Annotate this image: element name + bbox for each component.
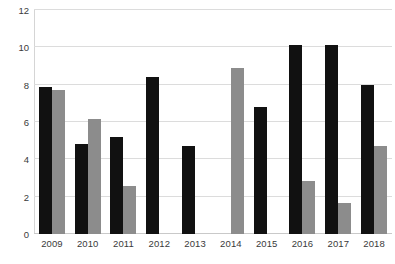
x-tick-label-2012: 2012 — [141, 238, 177, 249]
y-tick-label-0: 0 — [0, 229, 29, 240]
bar-groups — [34, 10, 392, 234]
y-tick-label-10: 10 — [0, 42, 29, 53]
x-tick-label-2017: 2017 — [320, 238, 356, 249]
bar-group-2012 — [141, 10, 177, 234]
bar-group-2018 — [356, 10, 392, 234]
bar-group-2017 — [320, 10, 356, 234]
bar-series-1-2017 — [325, 45, 338, 234]
bar-series-2-2018 — [374, 146, 387, 234]
y-tick-label-12: 12 — [0, 5, 29, 16]
bar-series-1-2016 — [289, 45, 302, 234]
bar-group-2010 — [70, 10, 106, 234]
x-tick-label-2016: 2016 — [285, 238, 321, 249]
x-tick-label-2010: 2010 — [70, 238, 106, 249]
x-tick-label-2014: 2014 — [213, 238, 249, 249]
x-axis-tick-labels: 2009201020112012201320142015201620172018 — [34, 238, 392, 249]
bar-series-1-2015 — [254, 107, 267, 234]
bar-series-2-2017 — [338, 203, 351, 234]
y-tick-label-8: 8 — [0, 79, 29, 90]
bar-series-2-2011 — [123, 186, 136, 234]
x-tick-label-2018: 2018 — [356, 238, 392, 249]
bar-series-1-2018 — [361, 85, 374, 234]
y-tick-label-2: 2 — [0, 191, 29, 202]
bar-series-1-2010 — [75, 144, 88, 234]
bar-series-1-2009 — [39, 87, 52, 234]
bar-series-2-2009 — [52, 90, 65, 234]
y-tick-label-4: 4 — [0, 154, 29, 165]
bar-group-2013 — [177, 10, 213, 234]
bar-group-2011 — [106, 10, 142, 234]
x-tick-label-2011: 2011 — [106, 238, 142, 249]
x-tick-label-2013: 2013 — [177, 238, 213, 249]
bar-series-2-2014 — [231, 68, 244, 234]
x-tick-label-2009: 2009 — [34, 238, 70, 249]
bar-chart: 024681012 200920102011201220132014201520… — [0, 0, 395, 264]
bar-group-2009 — [34, 10, 70, 234]
y-tick-label-6: 6 — [0, 117, 29, 128]
plot-area — [34, 10, 392, 234]
x-tick-label-2015: 2015 — [249, 238, 285, 249]
bar-group-2015 — [249, 10, 285, 234]
y-axis-tick-labels: 024681012 — [0, 10, 29, 234]
bar-series-2-2016 — [302, 181, 315, 234]
bar-series-1-2012 — [146, 77, 159, 234]
bar-group-2014 — [213, 10, 249, 234]
bar-series-1-2013 — [182, 146, 195, 234]
bar-group-2016 — [285, 10, 321, 234]
bar-series-2-2010 — [88, 119, 101, 234]
bar-series-1-2011 — [110, 137, 123, 234]
